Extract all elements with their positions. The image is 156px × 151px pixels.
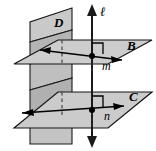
line-ell-arrow-bottom — [87, 136, 97, 148]
line-n-arrow-left — [22, 109, 34, 116]
line-n-label: n — [104, 109, 110, 123]
plane-c-label: C — [129, 89, 138, 104]
intersection-point-upper — [89, 53, 95, 59]
line-ell-arrow-top — [87, 4, 97, 16]
geometry-figure: D B C ℓ m n — [0, 0, 156, 151]
intersection-point-lower — [89, 107, 95, 113]
geometry-diagram-svg: D B C ℓ m n — [0, 0, 156, 151]
plane-d-label: D — [53, 15, 64, 30]
line-ell-label: ℓ — [100, 4, 106, 19]
plane-b-label: B — [126, 38, 136, 53]
line-m-label: m — [102, 59, 111, 73]
